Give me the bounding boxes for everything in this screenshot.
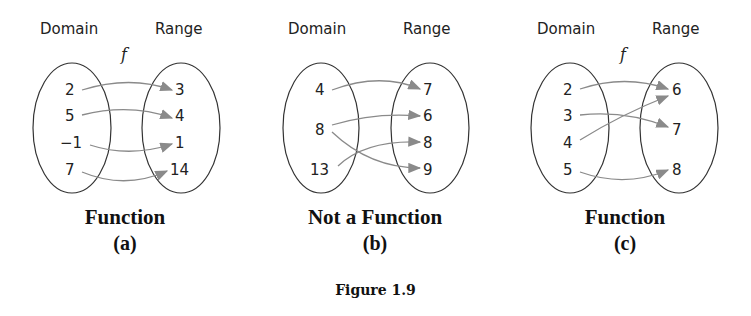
- arrow-13-to-8: [338, 142, 420, 166]
- range-value: 4: [175, 108, 185, 124]
- domain-value: 5: [563, 162, 573, 178]
- range-value: 6: [423, 108, 433, 124]
- domain-value: 5: [65, 108, 75, 124]
- domain-label: Domain: [537, 20, 595, 38]
- range-value: 8: [672, 162, 682, 178]
- panel-title: Function: [500, 205, 750, 230]
- range-value: 7: [672, 122, 682, 138]
- panel-sublabel: (c): [500, 232, 750, 255]
- domain-value: 3: [563, 108, 573, 124]
- panel-sublabel: (a): [0, 232, 250, 255]
- range-value: 1: [175, 135, 185, 151]
- domain-value: 8: [315, 122, 325, 138]
- panel-title: Not a Function: [250, 205, 500, 230]
- panel-title: Function: [0, 205, 250, 230]
- arrow-4-to-6: [580, 96, 668, 140]
- range-label: Range: [403, 20, 451, 38]
- domain-value: 4: [563, 135, 573, 151]
- arrow-5-to-4: [82, 110, 172, 118]
- range-value: 7: [423, 82, 433, 98]
- arrow-2-to-3: [82, 83, 172, 91]
- panel-c: Domain Range f 2 3 4 5 6 7 8 Function (c…: [500, 0, 750, 270]
- domain-value: −1: [60, 135, 82, 151]
- function-name: f: [620, 45, 626, 64]
- panel-a: Domain Range f 2 5 −1 7 3 4 1 14 Functio…: [0, 0, 250, 270]
- domain-value: 13: [310, 162, 329, 178]
- arrow-4-to-7: [332, 81, 420, 90]
- function-name: f: [121, 45, 127, 64]
- range-value: 14: [170, 162, 189, 178]
- figure-caption: Figure 1.9: [0, 282, 751, 298]
- domain-value: 2: [65, 82, 75, 98]
- arrow-neg1-to-1: [90, 144, 172, 151]
- range-value: 9: [423, 162, 433, 178]
- panel-sublabel: (b): [250, 232, 500, 255]
- range-label: Range: [652, 20, 700, 38]
- range-value: 8: [423, 135, 433, 151]
- range-value: 6: [672, 82, 682, 98]
- panel-b: Domain Range 4 8 13 7 6 8 9 Not a Functi…: [250, 0, 500, 270]
- domain-value: 4: [315, 82, 325, 98]
- domain-label: Domain: [40, 20, 98, 38]
- domain-value: 7: [65, 162, 75, 178]
- domain-label: Domain: [288, 20, 346, 38]
- arrow-8-to-6: [332, 115, 420, 125]
- arrow-8-to-9: [332, 132, 420, 168]
- arrow-2-to-6: [580, 82, 668, 90]
- domain-value: 2: [563, 82, 573, 98]
- range-value: 3: [175, 82, 185, 98]
- arrow-7-to-14: [82, 171, 167, 181]
- range-label: Range: [155, 20, 203, 38]
